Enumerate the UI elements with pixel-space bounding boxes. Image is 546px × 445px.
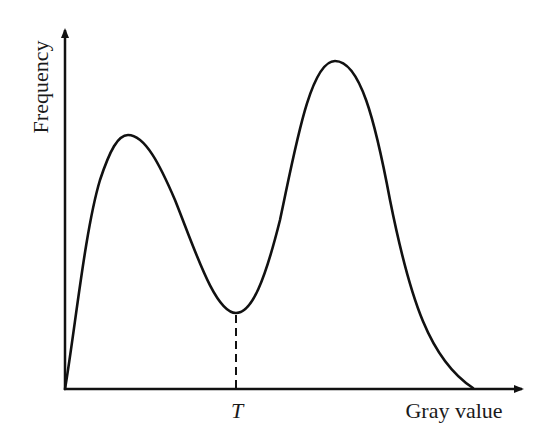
threshold-label: T <box>231 398 245 423</box>
histogram-curve <box>65 61 473 389</box>
x-axis-label: Gray value <box>405 398 502 423</box>
y-axis-label: Frequency <box>28 41 53 134</box>
histogram-chart: Frequency T Gray value <box>0 0 546 445</box>
